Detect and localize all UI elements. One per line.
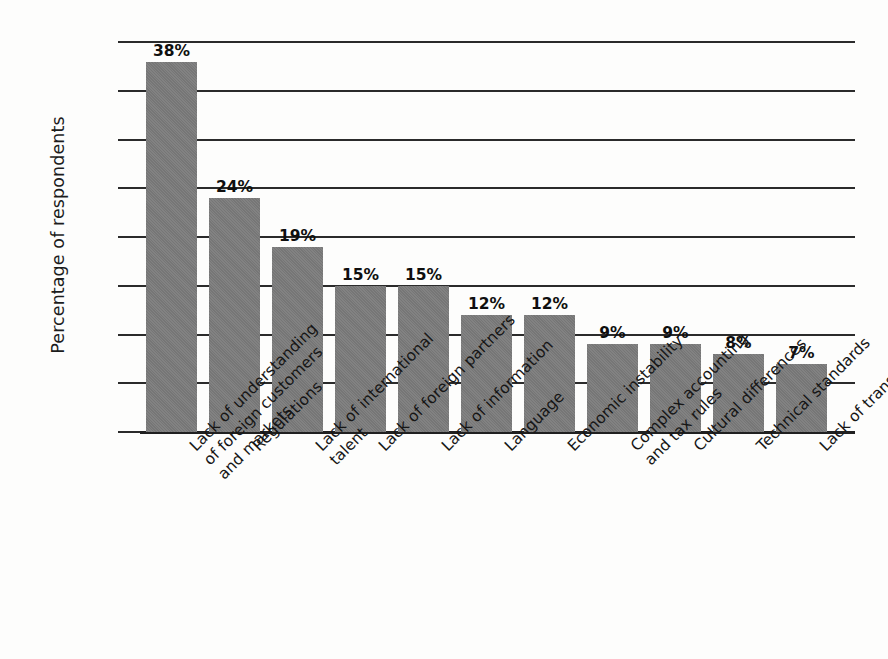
bar-value-label: 9% — [640, 324, 710, 342]
x-axis-label: Lack of information — [438, 442, 452, 456]
bar-value-label: 38% — [136, 42, 206, 60]
bar — [776, 364, 826, 432]
x-axis-label-line: Complex accounting — [627, 442, 641, 456]
x-axis-label-line: Lack of information — [438, 442, 452, 456]
bar-value-label: 9% — [577, 324, 647, 342]
bar — [713, 354, 763, 432]
x-axis-label: Lack of foreign partners — [375, 442, 389, 456]
bar — [650, 344, 700, 432]
x-axis-label: Language — [501, 442, 515, 456]
bar-chart: Percentage of respondents 40353025201510… — [0, 0, 888, 659]
y-axis-tick — [118, 139, 140, 141]
bar — [146, 62, 196, 433]
y-axis-tick — [118, 382, 140, 384]
x-axis-label-line: Language — [501, 442, 515, 456]
bar-value-label: 12% — [451, 295, 521, 313]
x-axis-label-line: and tax rules — [641, 456, 655, 470]
x-axis-label: Regulations — [249, 442, 263, 456]
y-axis-tick — [118, 285, 140, 287]
bar — [524, 315, 574, 432]
x-axis-label-line: Regulations — [249, 442, 263, 456]
bar — [272, 247, 322, 432]
x-axis-label: Lack of transportation — [816, 442, 830, 456]
bar-value-label: 24% — [199, 178, 269, 196]
bar-value-label: 15% — [325, 266, 395, 284]
x-axis-label-line: of foreign customers — [200, 456, 214, 470]
bar — [461, 315, 511, 432]
bar — [335, 286, 385, 432]
x-axis-label: Economic instability — [564, 442, 578, 456]
x-axis-label-line: Technical standards — [753, 442, 767, 456]
bar — [587, 344, 637, 432]
bar — [209, 198, 259, 432]
x-axis-label: Cultural differences — [690, 442, 704, 456]
bar-value-label: 8% — [703, 334, 773, 352]
x-axis-label-line: Lack of transportation — [816, 442, 830, 456]
gridline — [140, 139, 855, 141]
gridline — [140, 41, 855, 43]
x-axis-label-line: Lack of international — [312, 442, 326, 456]
x-axis-label-line: Lack of foreign partners — [375, 442, 389, 456]
bar-value-label: 12% — [514, 295, 584, 313]
bar-value-label: 7% — [766, 344, 836, 362]
y-axis-tick — [118, 187, 140, 189]
x-axis-label-line: Cultural differences — [690, 442, 704, 456]
bar — [398, 286, 448, 432]
bar-value-label: 15% — [388, 266, 458, 284]
x-axis-label-line: Economic instability — [564, 442, 578, 456]
x-axis-label-line: talent — [326, 456, 340, 470]
x-axis-label: Lack of understandingof foreign customer… — [186, 442, 228, 484]
y-axis-tick — [118, 334, 140, 336]
x-axis-label-line: Lack of understanding — [186, 442, 200, 456]
y-axis-tick — [118, 431, 140, 433]
gridline — [140, 90, 855, 92]
bar-value-label: 19% — [262, 227, 332, 245]
x-axis-label: Lack of internationaltalent — [312, 442, 340, 470]
y-axis-tick — [118, 236, 140, 238]
x-axis-label-line: and markets — [214, 470, 228, 484]
y-axis-tick — [118, 90, 140, 92]
x-axis-label: Technical standards — [753, 442, 767, 456]
x-axis-label: Complex accountingand tax rules — [627, 442, 655, 470]
plot-area: 403530252015105038%24%19%15%15%12%12%9%9… — [140, 42, 855, 432]
y-axis-title: Percentage of respondents — [48, 85, 68, 385]
